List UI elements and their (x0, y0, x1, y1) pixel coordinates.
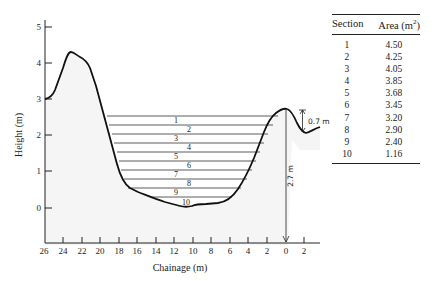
svg-text:20: 20 (96, 246, 106, 256)
table-row: 24.25 (332, 51, 420, 63)
table-row: 14.50 (332, 39, 420, 51)
svg-text:22: 22 (78, 246, 87, 256)
svg-text:1: 1 (174, 116, 178, 125)
table-row: 73.20 (332, 112, 420, 124)
svg-text:18: 18 (115, 246, 125, 256)
svg-text:4: 4 (187, 143, 191, 152)
y-axis-label: Height (m) (13, 113, 25, 157)
svg-text:0: 0 (37, 203, 42, 213)
ground-shading (45, 52, 320, 245)
svg-text:3: 3 (37, 94, 42, 104)
svg-text:3: 3 (174, 134, 178, 143)
svg-text:8: 8 (187, 179, 191, 188)
svg-text:16: 16 (133, 246, 143, 256)
table-body: 14.50 24.25 34.05 43.85 53.68 63.45 73.2… (332, 35, 420, 164)
svg-text:10: 10 (182, 198, 190, 207)
svg-text:6: 6 (228, 246, 233, 256)
svg-text:12: 12 (170, 246, 179, 256)
table-row: 92.40 (332, 136, 420, 148)
table-bottom-rule (332, 163, 420, 164)
svg-text:0: 0 (284, 246, 289, 256)
table-row: 63.45 (332, 99, 420, 111)
table-row: 34.05 (332, 63, 420, 75)
svg-text:6: 6 (187, 161, 191, 170)
svg-text:9: 9 (174, 188, 178, 197)
section-labels: 1 2 3 4 5 6 7 8 9 10 (174, 116, 191, 207)
header-section: Section (332, 18, 364, 31)
x-tick-labels: 26 24 22 20 18 16 14 12 10 8 6 4 2 0 2 (40, 246, 307, 256)
svg-text:2: 2 (265, 246, 270, 256)
x-axis-label: Chainage (m) (153, 262, 208, 274)
table-row: 82.90 (332, 124, 420, 136)
bank-drop-label: 0.7 m (308, 117, 330, 126)
svg-text:5: 5 (174, 152, 178, 161)
depth-label: 2.7 m (286, 165, 295, 187)
svg-text:5: 5 (37, 22, 42, 32)
header-area: Area (m2) (378, 18, 420, 31)
svg-text:7: 7 (174, 170, 178, 179)
svg-text:24: 24 (59, 246, 69, 256)
svg-text:4: 4 (246, 246, 251, 256)
table-row: 101.16 (332, 148, 420, 160)
table-row: 43.85 (332, 75, 420, 87)
svg-text:2: 2 (37, 130, 42, 140)
svg-text:2: 2 (187, 125, 191, 134)
svg-text:14: 14 (152, 246, 162, 256)
table-header: Section Area (m2) (332, 15, 420, 34)
section-area-table: Section Area (m2) 14.50 24.25 34.05 43.8… (332, 14, 420, 164)
svg-text:4: 4 (37, 58, 42, 68)
svg-text:26: 26 (40, 246, 50, 256)
svg-text:10: 10 (189, 246, 199, 256)
svg-text:2: 2 (302, 246, 307, 256)
y-tick-labels: 0 1 2 3 4 5 (37, 22, 42, 213)
svg-text:8: 8 (209, 246, 214, 256)
svg-text:1: 1 (37, 166, 42, 176)
table-row: 53.68 (332, 87, 420, 99)
